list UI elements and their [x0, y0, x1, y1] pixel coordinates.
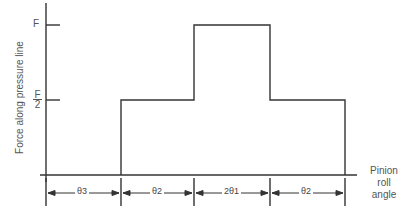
- segment-label-theta2: θ2: [150, 186, 164, 196]
- x-axis-label-line: Pinion: [362, 165, 406, 177]
- y-axis-label: Force along pressure line: [14, 33, 25, 163]
- tick-label-F: F: [33, 18, 39, 29]
- fraction-denominator: 2: [33, 99, 42, 109]
- segment-label-2theta1: 2θ1: [222, 186, 241, 196]
- segment-label-theta2-end: θ2: [299, 186, 313, 196]
- segment-label-theta3: θ3: [75, 186, 89, 196]
- fraction-numerator: F: [33, 90, 42, 99]
- x-axis-label-line: roll: [362, 177, 406, 189]
- tick-label-F-half: F 2: [33, 90, 42, 109]
- x-axis-label-line: angle: [362, 189, 406, 201]
- x-axis-label: Pinion roll angle: [362, 165, 406, 201]
- force-profile: [121, 25, 345, 175]
- force-step-diagram: [0, 0, 408, 216]
